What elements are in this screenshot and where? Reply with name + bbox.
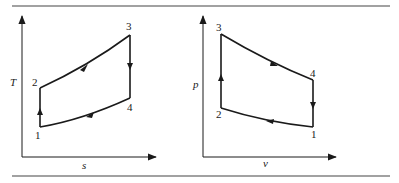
pv-process-1-2 — [221, 108, 313, 127]
pv-arrow-up-icon — [218, 74, 224, 81]
ts-point-1-label: 1 — [35, 129, 41, 141]
ts-point-2-label: 2 — [32, 76, 38, 88]
pv-point-3-label: 3 — [216, 21, 222, 33]
pv-diagram: p v 3 4 2 1 — [192, 16, 336, 169]
pv-x-axis-label: v — [263, 157, 268, 169]
pv-process-3-4 — [221, 34, 313, 80]
cycle-diagrams-figure: T s 2 3 4 1 p v 3 4 — [0, 0, 399, 183]
pv-point-2-label: 2 — [216, 108, 222, 120]
ts-y-axis-label: T — [10, 76, 17, 88]
ts-process-4-1 — [40, 98, 130, 127]
ts-point-4-label: 4 — [127, 101, 133, 113]
ts-process-2-3 — [40, 35, 130, 88]
ts-x-axis-label: s — [82, 159, 86, 171]
ts-arrow-up-icon — [37, 108, 43, 115]
ts-point-3-label: 3 — [126, 20, 132, 32]
pv-point-4-label: 4 — [310, 67, 316, 79]
ts-diagram: T s 2 3 4 1 — [10, 16, 156, 171]
pv-point-1-label: 1 — [311, 128, 317, 140]
ts-arrow-down-icon — [127, 63, 133, 70]
pv-arrow-down-icon — [310, 102, 316, 109]
pv-y-axis-label: p — [192, 78, 199, 90]
